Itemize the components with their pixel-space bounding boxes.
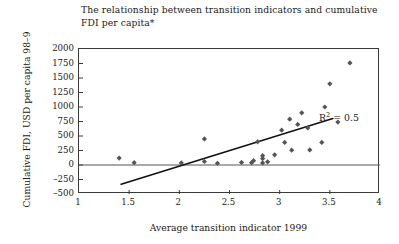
data-point [117, 155, 122, 160]
data-point [272, 152, 277, 157]
page-title: The relationship between transition indi… [81, 4, 381, 29]
y-tick-label: 1250 [34, 88, 74, 97]
figure-container: The relationship between transition indi… [0, 0, 399, 244]
x-axis-tick-labels: 11.522.533.54 [78, 198, 379, 212]
y-tick-label: 1500 [34, 73, 74, 82]
data-point [322, 104, 327, 109]
data-point-group [117, 60, 353, 166]
y-tick-label: 0 [34, 160, 74, 169]
data-point [289, 148, 294, 153]
y-tick-label: 250 [34, 146, 74, 155]
y-tick-label: 1750 [34, 59, 74, 68]
r-squared-base: R [319, 112, 326, 123]
y-axis-tick-labels: –500–250025050075010001250150017502000 [28, 48, 74, 193]
r-squared-value: = 0.5 [330, 112, 359, 123]
y-tick-label: 750 [34, 117, 74, 126]
data-point [295, 122, 300, 127]
data-point [282, 140, 287, 145]
data-point [299, 110, 304, 115]
x-axis-title: Average transition indicator 1999 [78, 222, 379, 233]
x-tick-label: 1 [58, 198, 98, 207]
data-point [287, 117, 292, 122]
data-point [307, 147, 312, 152]
data-point [279, 128, 284, 133]
r-squared-annotation: R2 = 0.5 [319, 111, 359, 123]
trendline [121, 119, 333, 185]
y-tick-label: 1000 [34, 102, 74, 111]
axis-tick-marks [79, 64, 330, 195]
data-point [319, 140, 324, 145]
data-point [260, 153, 265, 158]
data-point [265, 159, 270, 164]
data-point [327, 81, 332, 86]
x-tick-label: 2 [158, 198, 198, 207]
data-point [202, 136, 207, 141]
y-tick-label: 500 [34, 131, 74, 140]
x-tick-label: 3.5 [309, 198, 349, 207]
data-point [239, 160, 244, 165]
y-tick-label: 2000 [34, 44, 74, 53]
y-tick-label: –250 [34, 175, 74, 184]
y-tick-label: –500 [34, 189, 74, 198]
x-tick-label: 2.5 [209, 198, 249, 207]
x-tick-label: 4 [359, 198, 399, 207]
data-point [255, 139, 260, 144]
x-tick-label: 1.5 [108, 198, 148, 207]
x-tick-label: 3 [259, 198, 299, 207]
data-point [347, 60, 352, 65]
